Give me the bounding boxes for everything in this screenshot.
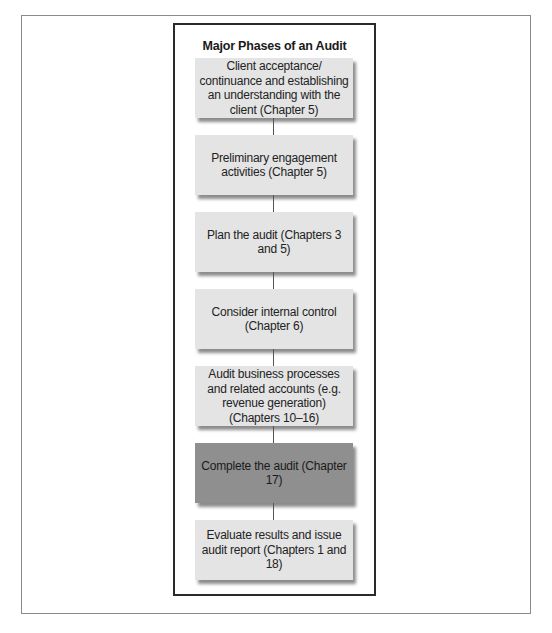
phase-label: Client acceptance/ continuance and estab… [198,59,350,117]
connector-line [273,118,274,135]
phase-box-business-processes: Audit business processes and related acc… [195,366,353,426]
connector-line [273,426,274,443]
phase-label: Plan the audit (Chapters 3 and 5) [198,228,350,257]
connector-line [273,272,274,289]
phase-box-internal-control: Consider internal control (Chapter 6) [195,289,353,349]
phase-label: Complete the audit (Chapter 17) [198,459,350,488]
phase-box-plan: Plan the audit (Chapters 3 and 5) [195,212,353,272]
phase-box-preliminary: Preliminary engagement activities (Chapt… [195,135,353,195]
audit-phases-panel: Major Phases of an Audit Client acceptan… [173,23,376,596]
phase-box-complete-audit: Complete the audit (Chapter 17) [195,443,353,503]
connector-line [273,349,274,366]
phase-label: Consider internal control (Chapter 6) [198,305,350,334]
phase-label: Audit business processes and related acc… [198,367,350,425]
phase-label: Evaluate results and issue audit report … [198,528,350,572]
phase-box-evaluate-results: Evaluate results and issue audit report … [195,520,353,580]
phase-label: Preliminary engagement activities (Chapt… [198,151,350,180]
diagram-title: Major Phases of an Audit [175,39,374,53]
phase-box-client-acceptance: Client acceptance/ continuance and estab… [195,58,353,118]
connector-line [273,195,274,212]
connector-line [273,503,274,520]
